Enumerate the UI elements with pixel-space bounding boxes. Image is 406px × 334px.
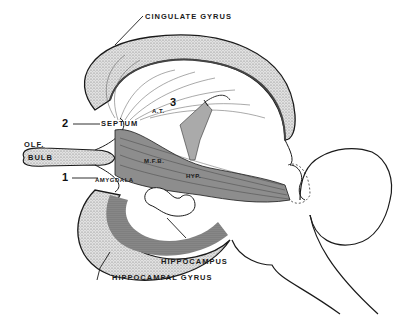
- label-number-3: 3: [170, 96, 176, 108]
- limbic-system-diagram: [0, 0, 406, 334]
- label-number-1: 1: [62, 171, 68, 183]
- anterior-thalamus-shape: [180, 102, 212, 160]
- label-cingulate-gyrus: CINGULATE GYRUS: [145, 12, 232, 21]
- label-hyp: HYP.: [186, 173, 201, 179]
- label-bulb: BULB: [28, 153, 53, 162]
- label-at: A.T.: [152, 108, 165, 114]
- label-amygdala: AMYGDALA: [95, 177, 134, 183]
- label-hippocampus: HIPPOCAMPUS: [161, 257, 228, 266]
- label-mfb: M.F.B.: [144, 158, 164, 164]
- mfb-bundle: [115, 130, 290, 203]
- label-hippocampal-gyrus: HIPPOCAMPAL GYRUS: [112, 273, 212, 282]
- label-septum: SEPTUM: [101, 119, 138, 128]
- label-olf: OLF.: [24, 140, 44, 149]
- label-number-2: 2: [62, 117, 68, 129]
